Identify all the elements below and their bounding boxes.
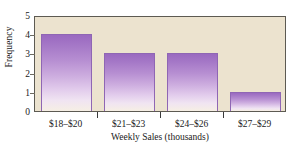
x-axis-title: Weekly Sales (thousands) — [34, 132, 286, 142]
bar — [167, 53, 218, 111]
y-tick-mark — [30, 74, 35, 75]
x-tick-label: $24–$26 — [160, 119, 223, 129]
y-tick-label: 3 — [14, 49, 30, 59]
y-tick-mark — [30, 54, 35, 55]
x-tick-label: $18–$20 — [34, 119, 97, 129]
y-tick-label: 1 — [14, 88, 30, 98]
plot-area — [34, 16, 286, 112]
x-tick-mark — [223, 112, 224, 118]
bar — [230, 92, 281, 111]
y-tick-mark — [30, 35, 35, 36]
x-tick-label: $27–$29 — [223, 119, 286, 129]
y-tick-label: 5 — [14, 11, 30, 21]
y-tick-label: 2 — [14, 69, 30, 79]
bar — [104, 53, 155, 111]
y-tick-label: 0 — [14, 107, 30, 117]
y-tick-mark — [30, 93, 35, 94]
histogram-figure: Frequency 012345 Weekly Sales (thousands… — [0, 0, 295, 148]
x-tick-mark — [160, 112, 161, 118]
bar — [41, 34, 92, 111]
x-tick-label: $21–$23 — [97, 119, 160, 129]
clipped-caption-text — [14, 0, 214, 2]
bars-container — [35, 17, 285, 111]
y-tick-label: 4 — [14, 30, 30, 40]
y-axis-tick-labels: 012345 — [14, 11, 30, 117]
x-tick-mark — [97, 112, 98, 118]
y-axis-title: Frequency — [4, 16, 14, 78]
